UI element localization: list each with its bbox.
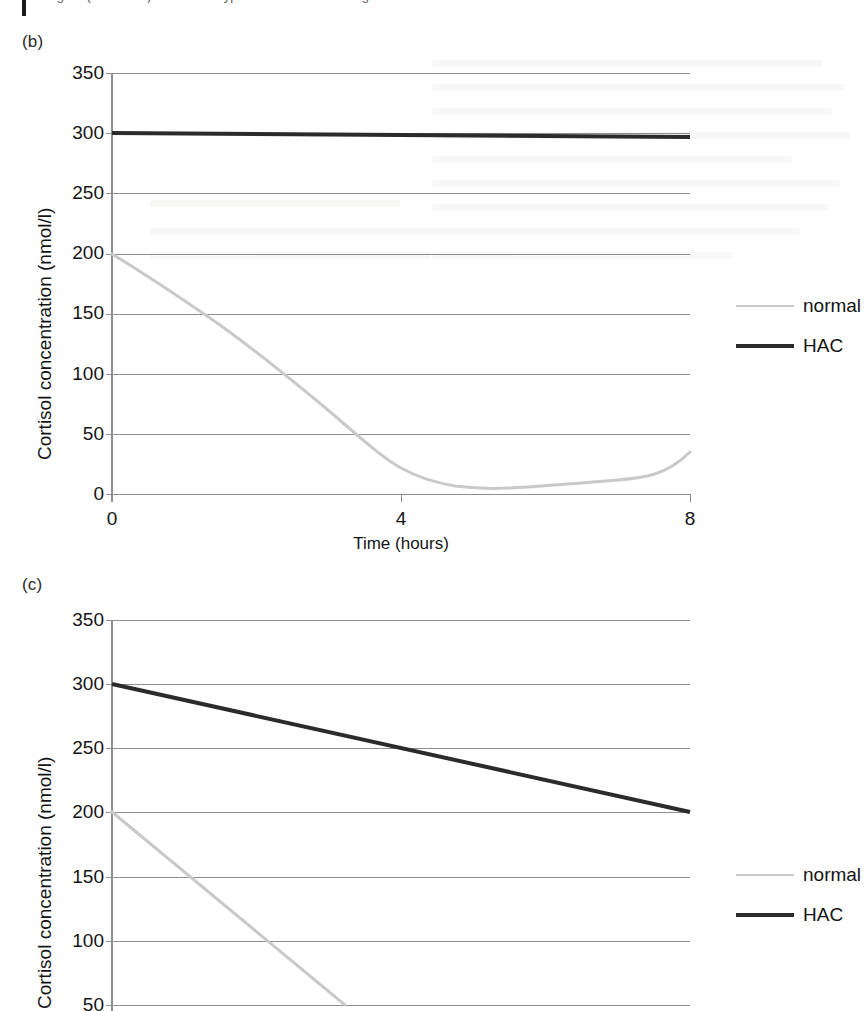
panel-c-legend: normal HAC: [736, 865, 868, 929]
panel-c-legend-item-normal: normal: [736, 865, 861, 884]
legend-line-hac-icon: [736, 344, 794, 348]
panel-b-ytick-350: 350: [48, 62, 104, 84]
panel-c-legend-label-hac: HAC: [803, 905, 843, 924]
panel-c-ytick-200: 200: [48, 801, 104, 823]
panel-b-legend-item-hac: HAC: [736, 336, 843, 355]
panel-b-ytick-100: 100: [48, 363, 104, 385]
panel-b-legend-item-normal: normal: [736, 296, 861, 315]
panel-c-ytick-300: 300: [48, 673, 104, 695]
panel-b-ytick-0: 0: [48, 483, 104, 505]
panel-c-ytick-100: 100: [48, 930, 104, 952]
panel-b-plot: [100, 60, 704, 510]
panel-c-label: (c): [22, 575, 42, 595]
panel-b-ytick-150: 150: [48, 302, 104, 324]
panel-b-ytick-300: 300: [48, 122, 104, 144]
legend-line-hac-icon: [736, 913, 794, 917]
panel-b-series-hac: [112, 133, 690, 137]
panel-b-legend: normal HAC: [736, 296, 868, 360]
legend-line-normal-icon: [736, 305, 794, 307]
legend-line-normal-icon: [736, 874, 794, 876]
panel-b-legend-label-normal: normal: [803, 296, 861, 315]
panel-b-label: (b): [22, 32, 43, 52]
panel-c: (c) Cortisol concentration (nmol/l) 350 …: [0, 560, 868, 1011]
panel-c-series-normal: [112, 812, 345, 1005]
panel-b-x-axis-label: Time (hours): [281, 534, 521, 554]
panel-b-xtick-4: 4: [381, 508, 421, 530]
panel-c-ytick-250: 250: [48, 737, 104, 759]
panel-b-series-normal: [112, 254, 690, 488]
panel-b-ytick-50: 50: [48, 423, 104, 445]
panel-c-plot: [100, 605, 704, 1011]
panel-c-ytick-150: 150: [48, 866, 104, 888]
panel-c-ytick-50: 50: [48, 994, 104, 1011]
page-root: Figure (continued) — Canine hyperadrenoc…: [0, 0, 868, 1011]
panel-c-legend-label-normal: normal: [803, 865, 861, 884]
panel-b-ytick-200: 200: [48, 242, 104, 264]
panel-c-ytick-350: 350: [48, 609, 104, 631]
panel-b: (b) Cortisol concentration (nmol/l) 350 …: [0, 0, 868, 560]
panel-b-xtick-0: 0: [92, 508, 132, 530]
panel-b-ytick-250: 250: [48, 182, 104, 204]
panel-b-xtick-8: 8: [670, 508, 710, 530]
panel-c-legend-item-hac: HAC: [736, 905, 843, 924]
panel-b-legend-label-hac: HAC: [803, 336, 843, 355]
